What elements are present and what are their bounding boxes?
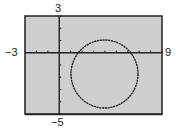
x-max-label: 9: [165, 47, 171, 58]
y-max-label: 3: [55, 3, 61, 14]
y-min-label: −5: [51, 117, 64, 128]
x-min-label: −3: [5, 47, 18, 58]
plot-window: [25, 16, 162, 114]
calculator-graph: [0, 0, 176, 131]
